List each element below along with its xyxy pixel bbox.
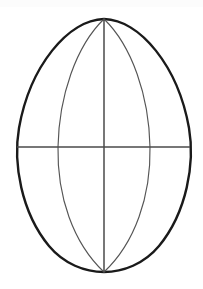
figure-canvas: Egg outline with meridian and equator co… [0, 0, 203, 289]
lens-left-arc-path [58, 19, 104, 272]
lens-right-arc-path [104, 19, 150, 272]
egg-diagram: Egg outline with meridian and equator co… [0, 0, 203, 289]
